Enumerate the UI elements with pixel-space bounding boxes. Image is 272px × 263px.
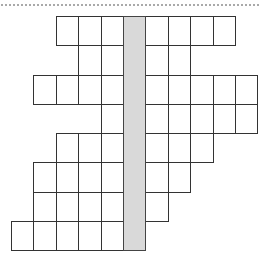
grid-cell	[145, 16, 169, 46]
grid-cell	[101, 221, 124, 251]
grid-cell	[213, 104, 236, 134]
grid-cell	[78, 45, 102, 76]
dotted-top-rule	[1, 4, 259, 6]
grid-cell	[33, 192, 57, 222]
grid-cell	[78, 221, 102, 251]
grid-cell	[101, 75, 124, 105]
grid-cell	[213, 16, 236, 46]
grid-cell	[78, 162, 102, 193]
grid-cell	[101, 162, 124, 193]
grid-cell	[190, 104, 214, 134]
grid-cell	[56, 221, 79, 251]
grid-cell	[168, 104, 191, 134]
grid-cell	[101, 104, 124, 134]
grid-cell	[190, 16, 214, 46]
grid-cell	[33, 221, 57, 251]
grid-cell	[78, 16, 102, 46]
grid-cell	[33, 162, 57, 193]
grid-cell	[235, 104, 258, 134]
grid-cell	[168, 133, 191, 163]
grid-cell	[78, 192, 102, 222]
grid-cell	[33, 75, 57, 105]
grid-cell	[101, 45, 124, 76]
grid-cell	[168, 162, 191, 193]
grid-cell	[168, 45, 191, 76]
grid-cell	[56, 16, 79, 46]
grid-cell	[213, 75, 236, 105]
grid-cell	[101, 16, 124, 46]
grid-cell	[56, 133, 79, 163]
grid-cell	[78, 133, 102, 163]
shaded-column	[123, 16, 146, 251]
grid-cell	[190, 75, 214, 105]
grid-cell	[145, 133, 169, 163]
grid-cell	[145, 162, 169, 193]
grid-cell	[78, 75, 102, 105]
grid-cell	[56, 192, 79, 222]
grid-cell	[56, 162, 79, 193]
grid-cell	[168, 75, 191, 105]
grid-cell	[168, 16, 191, 46]
grid-cell	[145, 75, 169, 105]
grid-cell	[11, 221, 34, 251]
grid-cell	[145, 192, 169, 222]
grid-cell	[56, 75, 79, 105]
grid-cell	[145, 45, 169, 76]
grid-cell	[145, 104, 169, 134]
grid-cell	[101, 192, 124, 222]
grid-cell	[235, 75, 258, 105]
grid-cell	[190, 133, 214, 163]
grid-cell	[101, 133, 124, 163]
